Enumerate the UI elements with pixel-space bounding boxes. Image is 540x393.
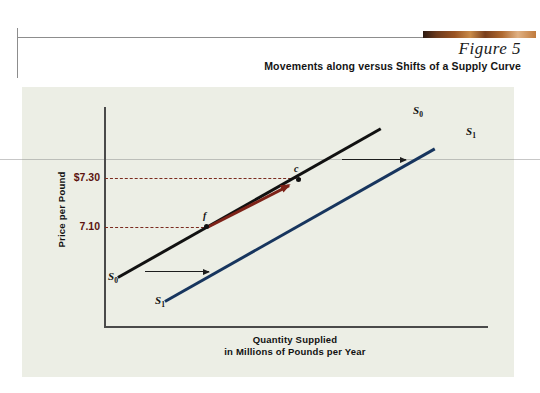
header-accent-bar bbox=[423, 31, 536, 38]
curve-label-s1-bottom: S1 bbox=[155, 294, 165, 309]
x-axis-line bbox=[104, 326, 488, 328]
price-guide-line-730 bbox=[105, 178, 301, 179]
page-scan-line bbox=[0, 159, 540, 160]
y-tick-label-710: 7.10 bbox=[40, 220, 100, 232]
curve-label-s1-top: S1 bbox=[466, 125, 476, 140]
x-axis-label-line2: in Millions of Pounds per Year bbox=[224, 346, 366, 357]
header-vertical-rule bbox=[17, 28, 18, 78]
data-point-label-c: c bbox=[294, 163, 298, 174]
header-horizontal-rule bbox=[17, 37, 423, 38]
curve-label-s0-bottom: S0 bbox=[108, 270, 118, 285]
x-axis-label-line1: Quantity Supplied bbox=[253, 334, 338, 345]
y-tick-label-730: $7.30 bbox=[40, 171, 100, 183]
shift-arrow-upper bbox=[342, 159, 406, 160]
figure-page: Figure 5 Movements along versus Shifts o… bbox=[0, 0, 540, 393]
figure-number: Figure 5 bbox=[459, 39, 521, 59]
data-point-c bbox=[296, 177, 301, 182]
curve-label-subscript: 0 bbox=[114, 276, 118, 285]
figure-title: Movements along versus Shifts of a Suppl… bbox=[264, 60, 521, 72]
curve-label-subscript: 1 bbox=[472, 131, 476, 140]
data-point-label-f: f bbox=[203, 210, 206, 221]
curve-label-subscript: 0 bbox=[419, 110, 423, 119]
curve-label-subscript: 1 bbox=[161, 300, 165, 309]
x-axis-label: Quantity Supplied in Millions of Pounds … bbox=[150, 334, 440, 358]
shift-arrow-lower bbox=[145, 271, 209, 272]
price-guide-line-710 bbox=[105, 227, 209, 228]
y-axis-line bbox=[104, 107, 106, 328]
data-point-f bbox=[204, 224, 209, 229]
curve-label-s0-top: S0 bbox=[413, 104, 423, 119]
y-axis-label: Price per Pound bbox=[56, 145, 67, 275]
